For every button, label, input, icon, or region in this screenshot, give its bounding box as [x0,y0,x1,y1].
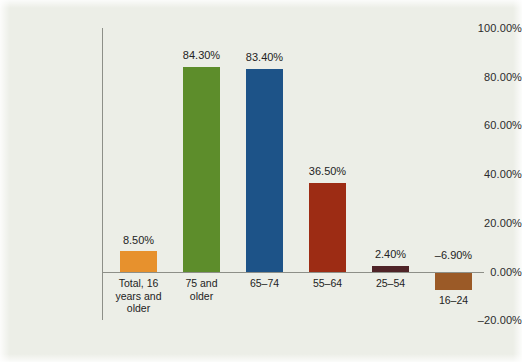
category-line: older [162,290,241,303]
category-line: older [99,302,178,315]
bar-65-74[interactable] [246,69,283,272]
bar-25-54[interactable] [372,266,409,272]
bar-group-65-74[interactable]: 83.40% 65–74 [233,0,296,362]
bar-value-label: –6.90% [416,249,491,261]
bar-16-24[interactable] [435,273,472,290]
bar-value-label: 8.50% [101,234,176,246]
category-line: 25–54 [351,277,430,290]
bar-group-total-16-and-older[interactable]: 8.50% Total, 16 years and older [107,0,170,362]
bar-group-75-and-older[interactable]: 84.30% 75 and older [170,0,233,362]
category-line: 16–24 [414,294,493,307]
bar-value-label: 83.40% [227,51,302,63]
bar-total-16-and-older[interactable] [120,251,157,272]
bar-55-64[interactable] [309,183,346,272]
bars-container: 8.50% Total, 16 years and older 84.30% 7… [102,0,484,362]
bar-group-55-64[interactable]: 36.50% 55–64 [296,0,359,362]
bar-category-label: 25–54 [351,277,430,290]
plot-area: 100.00% 80.00% 60.00% 40.00% 20.00% 0.00… [0,0,522,362]
bar-group-16-24[interactable]: –6.90% 16–24 [422,0,485,362]
bar-category-label: 16–24 [414,294,493,307]
bar-group-25-54[interactable]: 2.40% 25–54 [359,0,422,362]
bar-value-label: 36.50% [290,165,365,177]
bar-chart: 100.00% 80.00% 60.00% 40.00% 20.00% 0.00… [0,0,522,362]
bar-75-and-older[interactable] [183,67,220,272]
